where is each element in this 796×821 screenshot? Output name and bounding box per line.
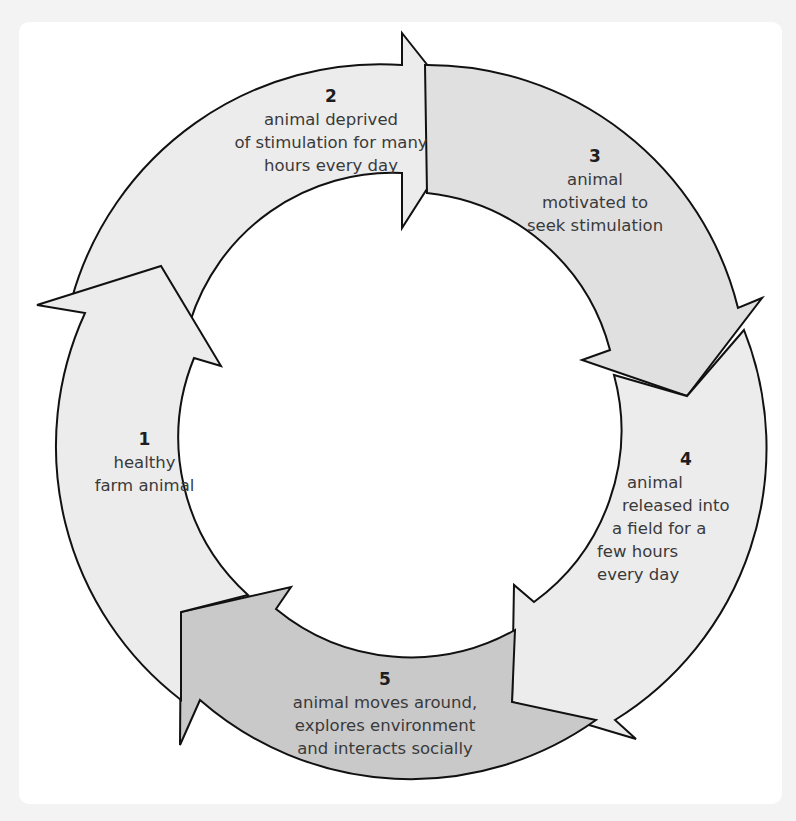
step-4-label: 4 animal released into a field for a few… — [592, 448, 742, 586]
step-5-label: 5 animal moves around, explores environm… — [265, 668, 505, 760]
step-2-label: 2 animal deprived of stimulation for man… — [216, 85, 446, 177]
step-1-label: 1 healthy farm animal — [72, 428, 217, 497]
step-2-number: 2 — [216, 85, 446, 108]
step-3-number: 3 — [520, 145, 670, 168]
step-3-label: 3 animal motivated to seek stimulation — [520, 145, 670, 237]
step-1-number: 1 — [72, 428, 217, 451]
step-5-number: 5 — [265, 668, 505, 691]
step-4-number: 4 — [592, 448, 742, 471]
